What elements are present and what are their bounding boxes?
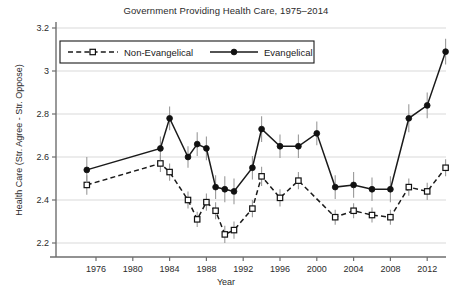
data-point-marker [332,184,338,190]
data-point-marker [222,186,228,192]
data-point-marker [333,215,338,220]
y-tick-label: 2.8 [36,109,49,119]
y-tick-label: 2.2 [36,238,49,248]
plot-area: 2.22.42.62.833.2 19761980198419881992199… [0,0,452,298]
legend-label-non-evangelical: Non-Evangelical [124,47,193,58]
x-tick-label: 1976 [86,264,106,274]
data-point-marker [167,169,172,174]
x-tick-label: 1996 [270,264,290,274]
series-line [87,52,446,192]
data-point-marker [424,103,430,109]
data-point-marker [388,186,394,192]
data-point-marker [369,212,374,217]
data-point-marker [204,199,209,204]
y-tick-label: 2.6 [36,152,49,162]
data-point-marker [351,208,356,213]
data-point-marker [296,143,302,149]
data-point-marker [314,130,320,136]
legend-label-evangelical: Evangelical [264,47,313,58]
series-non-evangelical [84,155,448,243]
data-point-marker [277,195,282,200]
data-point-marker [185,154,191,160]
x-axis-ticks: 1976198019841988199219962000200420082012 [86,257,437,274]
x-tick-label: 2004 [344,264,364,274]
data-point-marker [425,189,430,194]
data-series-layer [84,39,449,243]
data-point-marker [406,184,411,189]
data-point-marker [222,232,227,237]
data-point-marker [167,115,173,121]
data-point-marker [388,215,393,220]
x-tick-label: 2012 [417,264,437,274]
x-tick-label: 2000 [307,264,327,274]
y-tick-label: 3.2 [36,23,49,33]
chart-container: Government Providing Health Care, 1975–2… [0,0,452,298]
data-point-marker [195,217,200,222]
data-point-marker [443,49,449,55]
x-tick-label: 1988 [196,264,216,274]
data-point-marker [185,197,190,202]
data-point-marker [369,186,375,192]
data-point-marker [231,227,236,232]
x-tick-label: 1992 [233,264,253,274]
data-point-marker [259,126,265,132]
y-axis-ticks: 2.22.42.62.833.2 [36,23,56,248]
legend-marker-open-square [90,49,95,54]
y-tick-label: 2.4 [36,195,49,205]
data-point-marker [250,165,256,171]
data-point-marker [406,115,412,121]
data-point-marker [351,182,357,188]
x-tick-label: 2008 [380,264,400,274]
data-point-marker [296,178,301,183]
data-point-marker [213,184,219,190]
data-point-marker [158,161,163,166]
data-point-marker [84,167,90,173]
y-tick-label: 3 [44,66,49,76]
legend-marker-filled-circle [231,49,237,55]
x-tick-label: 1984 [160,264,180,274]
data-point-marker [84,182,89,187]
data-point-marker [443,165,448,170]
series-evangelical [84,39,449,205]
data-point-marker [204,146,210,152]
data-point-marker [250,206,255,211]
data-point-marker [213,208,218,213]
data-point-marker [259,174,264,179]
x-tick-label: 1980 [123,264,143,274]
data-point-marker [277,143,283,149]
data-point-marker [194,141,200,147]
data-point-marker [158,146,164,152]
data-point-marker [231,189,237,195]
chart-legend: Non-EvangelicalEvangelical [60,41,314,63]
series-line [87,163,446,234]
